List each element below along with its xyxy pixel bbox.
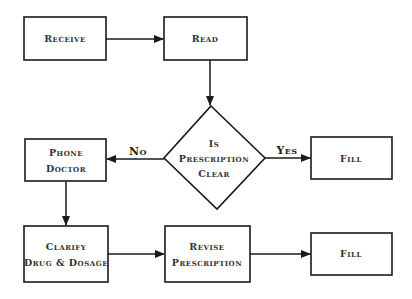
node-fill-top-label: Fill (340, 153, 362, 164)
node-revise-box (165, 226, 250, 282)
node-decision-line2: Prescription (179, 153, 249, 164)
node-read-label: Read (192, 33, 219, 44)
node-decision: Is Prescription Clear (164, 106, 265, 209)
node-fill-bottom-label: Fill (340, 248, 362, 259)
node-decision-line1: Is (209, 138, 220, 149)
node-receive: Receive (24, 17, 106, 60)
node-read: Read (164, 17, 247, 60)
node-clarify-box (24, 226, 108, 282)
flowchart-canvas: No Yes Receive Read Is Prescription Clea… (0, 0, 412, 299)
node-revise-line1: Revise (189, 241, 224, 252)
node-clarify-line2: Drug & Dosage (24, 257, 108, 268)
edge-label-no: No (129, 145, 147, 158)
node-fill-bottom: Fill (311, 233, 392, 275)
node-receive-label: Receive (44, 33, 86, 44)
node-decision-line3: Clear (198, 168, 230, 179)
edge-label-yes: Yes (275, 144, 297, 157)
node-clarify: Clarify Drug & Dosage (24, 226, 108, 282)
node-revise: Revise Prescription (165, 226, 250, 282)
node-phone-doctor-line2: Doctor (46, 163, 86, 174)
node-phone-doctor: Phone Doctor (25, 139, 106, 181)
node-fill-top: Fill (311, 137, 392, 179)
node-clarify-line1: Clarify (46, 241, 87, 252)
node-revise-line2: Prescription (172, 257, 242, 268)
node-phone-doctor-box (25, 139, 106, 181)
node-phone-doctor-line1: Phone (49, 147, 83, 158)
